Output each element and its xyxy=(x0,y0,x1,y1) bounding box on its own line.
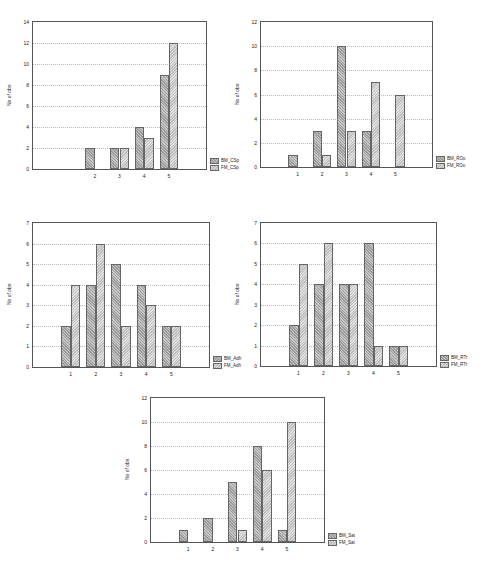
legend-label: FM_RTr xyxy=(451,362,467,367)
y-tick-label: 14 xyxy=(17,19,29,25)
legend-swatch xyxy=(440,355,449,361)
bar-fm-adh-4 xyxy=(146,305,156,367)
gridline xyxy=(261,70,432,71)
plot-area xyxy=(32,222,210,368)
legend-item: FM_CSp xyxy=(210,164,239,171)
bar-fm-adh-3 xyxy=(121,326,131,367)
gridline xyxy=(261,95,432,96)
y-tick-label: 8 xyxy=(17,82,29,88)
x-tick-label: 3 xyxy=(345,171,348,177)
y-tick-label: 6 xyxy=(17,103,29,109)
y-tick-label: 2 xyxy=(245,322,257,328)
legend-swatch xyxy=(210,165,219,171)
bar-bm-rtr-1 xyxy=(289,325,299,366)
bar-bm-sat-5 xyxy=(278,530,287,542)
x-tick-label: 3 xyxy=(118,173,121,179)
x-tick-label: 5 xyxy=(168,173,171,179)
x-tick-label: 1 xyxy=(296,171,299,177)
bar-bm-csp-3 xyxy=(110,148,119,169)
y-tick-label: 7 xyxy=(17,220,29,226)
legend-label: FM_CSp xyxy=(221,165,239,170)
bar-fm-sat-5 xyxy=(287,422,296,542)
y-tick-label: 0 xyxy=(17,166,29,172)
bar-bm-roo-2 xyxy=(313,131,322,167)
x-tick-label: 3 xyxy=(236,546,239,552)
y-tick-label: 4 xyxy=(245,116,257,122)
x-tick-label: 2 xyxy=(94,371,97,377)
y-tick-label: 5 xyxy=(17,261,29,267)
bar-bm-adh-4 xyxy=(137,285,147,367)
bar-fm-adh-5 xyxy=(171,326,181,367)
legend-item: BM_RTr xyxy=(440,354,468,361)
y-tick-label: 1 xyxy=(245,343,257,349)
bar-fm-sat-3 xyxy=(238,530,247,542)
legend-item: FM_RTr xyxy=(440,361,468,368)
legend-swatch xyxy=(440,362,449,368)
bar-fm-roo-5 xyxy=(395,95,404,168)
bar-bm-rtr-4 xyxy=(364,243,374,366)
legend-label: BM_ROo xyxy=(447,156,466,161)
x-tick-label: 4 xyxy=(143,173,146,179)
legend-label: BM_CSp xyxy=(221,158,239,163)
y-tick-label: 8 xyxy=(245,67,257,73)
gridline xyxy=(33,244,209,245)
legend-item: BM_CSp xyxy=(210,157,239,164)
y-axis-label: No of obs xyxy=(6,84,12,105)
bar-bm-adh-5 xyxy=(162,326,172,367)
bar-bm-adh-3 xyxy=(111,264,121,367)
legend-item: FM_ROo xyxy=(436,162,466,169)
gridline xyxy=(151,470,324,471)
legend-swatch xyxy=(213,356,222,362)
y-tick-label: 2 xyxy=(135,515,147,521)
x-tick-label: 2 xyxy=(322,370,325,376)
y-tick-label: 0 xyxy=(245,164,257,170)
legend-label: FM_Adh xyxy=(224,363,241,368)
x-tick-label: 4 xyxy=(370,171,373,177)
gridline xyxy=(33,43,206,44)
legend-item: BM_ROo xyxy=(436,155,466,162)
gridline xyxy=(33,106,206,107)
y-tick-label: 0 xyxy=(135,539,147,545)
legend-swatch xyxy=(436,156,445,162)
y-tick-label: 6 xyxy=(245,240,257,246)
legend-swatch xyxy=(328,533,337,539)
y-tick-label: 6 xyxy=(135,467,147,473)
x-tick-label: 4 xyxy=(261,546,264,552)
legend: BM_ROoFM_ROo xyxy=(436,155,466,169)
plot-area xyxy=(32,21,207,170)
y-tick-label: 7 xyxy=(245,220,257,226)
bar-fm-csp-4 xyxy=(144,138,153,170)
y-axis-label: No of obs xyxy=(234,283,240,304)
x-tick-label: 3 xyxy=(347,370,350,376)
bar-bm-adh-2 xyxy=(86,285,96,367)
gridline xyxy=(33,285,209,286)
y-tick-label: 8 xyxy=(135,443,147,449)
y-tick-label: 4 xyxy=(17,282,29,288)
legend-item: BM_Sat xyxy=(328,532,355,539)
x-tick-label: 5 xyxy=(397,370,400,376)
legend: BM_RTrFM_RTr xyxy=(440,354,468,368)
y-tick-label: 12 xyxy=(135,395,147,401)
bar-fm-csp-5 xyxy=(169,43,178,169)
legend-swatch xyxy=(436,163,445,169)
bar-bm-roo-4 xyxy=(362,131,371,167)
legend-item: FM_Sat xyxy=(328,539,355,546)
y-tick-label: 0 xyxy=(245,363,257,369)
plot-area xyxy=(260,222,437,367)
y-tick-label: 6 xyxy=(245,92,257,98)
legend-label: BM_Adh xyxy=(224,356,241,361)
bar-bm-csp-5 xyxy=(160,75,169,170)
legend-item: FM_Adh xyxy=(213,362,241,369)
y-tick-label: 0 xyxy=(17,364,29,370)
x-tick-label: 3 xyxy=(120,371,123,377)
y-tick-label: 2 xyxy=(17,323,29,329)
bar-bm-adh-1 xyxy=(61,326,71,367)
gridline xyxy=(151,446,324,447)
bar-bm-sat-3 xyxy=(228,482,237,542)
legend-swatch xyxy=(213,363,222,369)
gridline xyxy=(151,494,324,495)
bar-fm-csp-3 xyxy=(120,148,129,169)
gridline xyxy=(151,518,324,519)
y-tick-label: 4 xyxy=(245,281,257,287)
plot-area xyxy=(260,21,433,168)
